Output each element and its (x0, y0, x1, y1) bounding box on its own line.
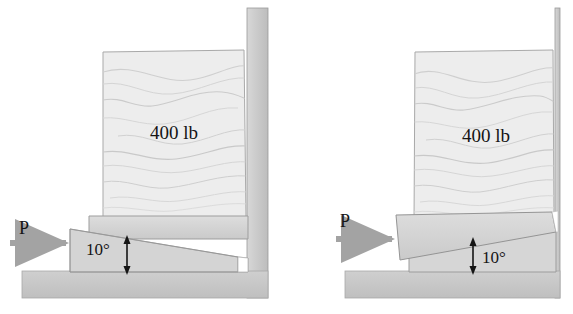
wood-block-right: 400 lb (414, 50, 556, 222)
wall-left (247, 8, 268, 298)
force-label-left: P (19, 218, 29, 238)
upper-plate-body (89, 216, 248, 239)
angle-label-right: 10° (482, 248, 506, 267)
statics-figure-svg: 400 lb P 10° (0, 0, 573, 314)
weight-label-right: 400 lb (462, 125, 510, 146)
ground-band (345, 271, 560, 298)
wall-column (247, 8, 268, 298)
weight-label-left: 400 lb (150, 122, 198, 143)
upper-plate-left (89, 216, 248, 239)
wood-block-left: 400 lb (103, 50, 248, 220)
ground-left (22, 271, 268, 298)
figure-container: 400 lb P 10° (0, 0, 573, 314)
angle-label-left: 10° (86, 240, 110, 259)
wedge-gap-left (238, 257, 248, 272)
ground-band (22, 271, 268, 298)
force-label-right: P (340, 211, 350, 231)
ground-right (345, 271, 560, 298)
